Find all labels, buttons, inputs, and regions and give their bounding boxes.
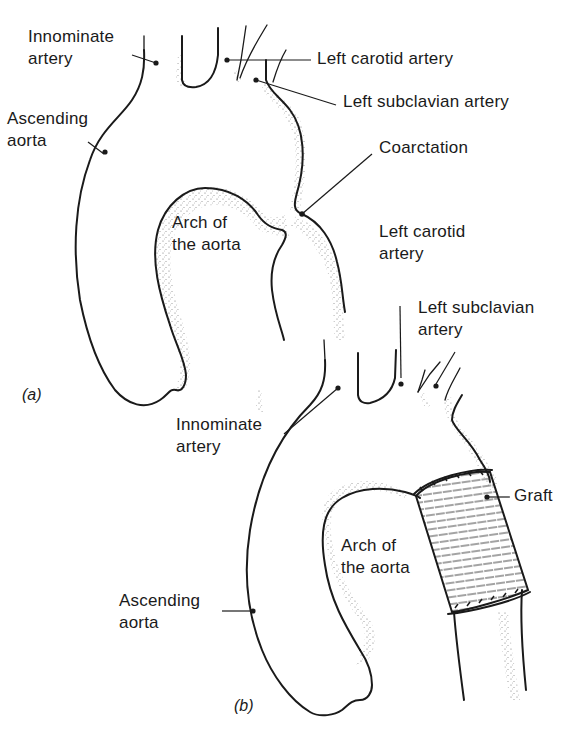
label-left-subclavian-artery-b: Left subclavian artery: [418, 297, 534, 341]
label-line: Innominate: [28, 26, 114, 48]
label-line: the aorta: [172, 234, 241, 256]
label-line: Innominate: [176, 414, 262, 436]
label-ascending-aorta-a: Ascending aorta: [7, 108, 88, 152]
label-innominate-artery-a: Innominate artery: [28, 26, 114, 70]
label-left-carotid-artery-a: Left carotid artery: [317, 48, 453, 70]
label-left-carotid-artery-b: Left carotid artery: [379, 221, 466, 265]
label-left-subclavian-artery-a: Left subclavian artery: [343, 91, 509, 113]
label-line: Ascending: [7, 108, 88, 130]
label-line: artery: [28, 48, 114, 70]
label-line: artery: [379, 243, 466, 265]
panel-b-aorta: [222, 306, 530, 715]
label-innominate-artery-b: Innominate artery: [176, 414, 262, 458]
label-line: Left carotid: [379, 221, 466, 243]
panel-tag-a: (a): [22, 386, 42, 404]
label-arch-of-aorta-b: Arch of the aorta: [341, 535, 410, 579]
label-line: aorta: [119, 612, 200, 634]
label-line: artery: [176, 436, 262, 458]
graft: [414, 470, 530, 614]
panel-tag-b: (b): [234, 697, 254, 715]
label-coarctation: Coarctation: [379, 137, 468, 159]
label-graft: Graft: [514, 485, 553, 507]
label-line: Left subclavian: [418, 297, 534, 319]
label-line: Ascending: [119, 590, 200, 612]
label-line: the aorta: [341, 557, 410, 579]
label-arch-of-aorta-a: Arch of the aorta: [172, 212, 241, 256]
label-line: aorta: [7, 130, 88, 152]
label-line: artery: [418, 319, 534, 341]
label-ascending-aorta-b: Ascending aorta: [119, 590, 200, 634]
label-line: Arch of: [341, 535, 410, 557]
label-line: Arch of: [172, 212, 241, 234]
